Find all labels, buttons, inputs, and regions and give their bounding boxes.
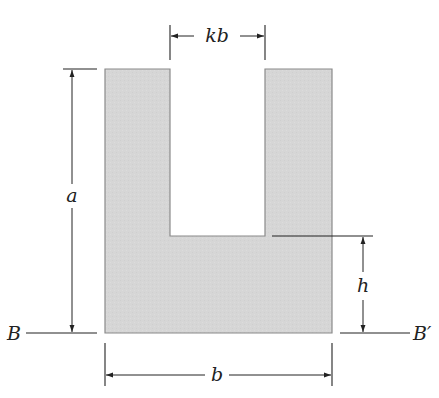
axis-label-b-prime: B′ <box>412 322 432 344</box>
h-label: h <box>357 274 369 296</box>
u-section-shape <box>105 69 332 333</box>
axis-label-b: B <box>6 322 21 344</box>
a-label: a <box>66 184 77 206</box>
kb-dimension: kb <box>170 24 265 60</box>
a-dimension: a <box>63 69 97 332</box>
b-label: b <box>211 363 223 385</box>
diagram-canvas: kb a B B′ h b <box>0 0 439 398</box>
kb-label: kb <box>205 24 229 46</box>
b-dimension: b <box>105 343 332 386</box>
